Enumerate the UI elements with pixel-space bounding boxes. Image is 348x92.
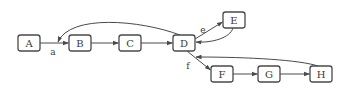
edge-h-to-d (196, 57, 318, 66)
node-e-label: E (230, 15, 237, 26)
node-g[interactable]: G (258, 66, 280, 82)
node-d-label: D (180, 38, 188, 49)
edge-d-to-e (195, 22, 223, 39)
node-a-label: A (24, 38, 33, 49)
node-h-label: H (317, 69, 326, 80)
edge-label-f: f (186, 61, 190, 71)
node-c-label: C (126, 38, 134, 49)
node-e[interactable]: E (223, 12, 245, 28)
edge-label-a: a (50, 47, 56, 57)
node-f[interactable]: F (211, 66, 233, 82)
edge-label-e: e (200, 25, 205, 35)
node-g-label: G (265, 69, 273, 80)
diagram-canvas: a e f A B C D E F G H (0, 0, 348, 92)
node-h[interactable]: H (310, 66, 332, 82)
node-d[interactable]: D (173, 35, 195, 51)
node-b-label: B (76, 38, 83, 49)
edge-d-to-f (187, 51, 211, 70)
node-b[interactable]: B (69, 35, 91, 51)
node-f-label: F (219, 69, 226, 80)
node-c[interactable]: C (119, 35, 141, 51)
node-a[interactable]: A (18, 35, 40, 51)
